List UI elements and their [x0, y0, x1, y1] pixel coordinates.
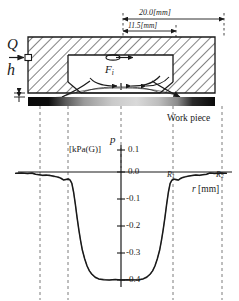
annotation-r2-subscript: 2 [221, 173, 224, 179]
annotation-r1: R1 [167, 171, 175, 180]
work-piece-label: Work piece [167, 114, 210, 124]
ytick-label: 0.1 [128, 145, 139, 154]
ytick-label: 0.0 [128, 167, 139, 176]
pressure-axis-unit: [kPa(G)] [69, 145, 101, 154]
annotation-r1-subscript: 1 [172, 173, 175, 179]
radius-axis-unit: [mm] [198, 184, 219, 194]
force-subscript: i [112, 68, 114, 77]
radius-axis-symbol: r [192, 184, 196, 194]
inlet-port [25, 55, 32, 61]
gap-dimension [14, 88, 25, 102]
figure-canvas [0, 0, 239, 301]
gap-height-label: h [7, 62, 15, 78]
inlet-label: Q [7, 37, 18, 52]
plot-axes [18, 145, 232, 287]
radius-axis-label: r [mm] [192, 185, 219, 195]
figure-root: 20.0[mm] 11.5[mm] Q h Fi Work piece p [k… [0, 0, 239, 301]
force-symbol: F [105, 63, 112, 75]
annotation-r2: R2 [216, 171, 224, 180]
force-label: Fi [105, 64, 114, 76]
dimension-20mm-label: 20.0[mm] [139, 9, 171, 17]
pressure-axis-symbol: p [110, 134, 116, 145]
correlation-guides [40, 106, 222, 300]
dimension-11.5mm-label: 11.5[mm] [128, 22, 157, 30]
ytick-label: -0.1 [126, 194, 140, 203]
ytick-label: -0.2 [126, 221, 140, 230]
work-piece-bar [28, 97, 215, 106]
ytick-label: -0.4 [126, 275, 140, 284]
ytick-label: -0.3 [126, 248, 140, 257]
